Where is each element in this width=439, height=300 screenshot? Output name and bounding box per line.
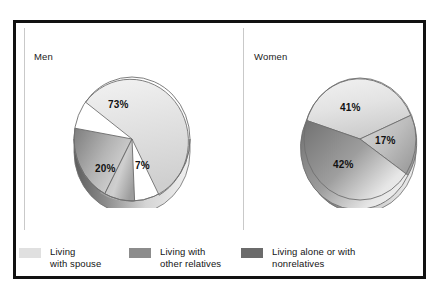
pie-men-svg: [70, 68, 194, 208]
pie-women-label-spouse: 41%: [340, 102, 361, 113]
legend-label-spouse: Living with spouse: [50, 246, 101, 269]
legend-swatch-spouse: [19, 248, 41, 258]
pie-women-svg: [300, 70, 420, 208]
pie-women-label-other-relatives: 17%: [375, 135, 396, 146]
legend-item-other-relatives: Living with other relatives: [129, 246, 221, 269]
legend-item-spouse: Living with spouse: [19, 246, 101, 269]
legend-item-alone-nonrelatives: Living alone or with nonrelatives: [241, 246, 355, 269]
pie-men-label-spouse: 73%: [108, 99, 129, 110]
figure-root: Men Women: [0, 0, 439, 300]
pie-men-label-other-relatives: 7%: [135, 160, 150, 171]
panel-divider: [243, 28, 244, 230]
legend-label-alone-nonrelatives: Living alone or with nonrelatives: [272, 246, 355, 269]
legend-swatch-other-relatives: [129, 248, 151, 258]
pie-chart-women: 41% 17% 42%: [300, 70, 420, 208]
legend: Living with spouse Living with other rel…: [19, 246, 419, 276]
legend-swatch-alone-nonrelatives: [241, 248, 263, 258]
legend-label-other-relatives: Living with other relatives: [160, 246, 221, 269]
pie-women-label-alone: 42%: [333, 159, 354, 170]
left-rule: [24, 28, 25, 230]
panel-title-men: Men: [34, 51, 53, 62]
pie-chart-men: 73% 20% 7%: [70, 68, 194, 208]
pie-men-label-alone: 20%: [95, 163, 116, 174]
panel-title-women: Women: [254, 51, 288, 62]
